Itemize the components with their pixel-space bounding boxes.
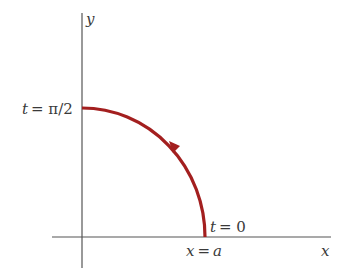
t-end-label: t= π/2: [22, 100, 73, 118]
x-axis-label: x: [321, 242, 330, 260]
y-axis-label: y: [85, 10, 95, 28]
t-start-eq: = 0: [219, 218, 246, 236]
x-equals-a-label: x=a: [186, 242, 222, 260]
t-end-eq: = π/2: [31, 100, 73, 118]
xa-var: x: [186, 242, 195, 260]
quarter-circle-curve: [82, 108, 205, 237]
xa-val: a: [213, 242, 222, 260]
parametric-curve-diagram: y x t= π/2 t= 0 x=a: [0, 0, 355, 279]
t-end-var: t: [22, 100, 29, 118]
xa-eq: =: [197, 242, 210, 260]
t-start-label: t= 0: [210, 218, 246, 236]
t-start-var: t: [210, 218, 217, 236]
